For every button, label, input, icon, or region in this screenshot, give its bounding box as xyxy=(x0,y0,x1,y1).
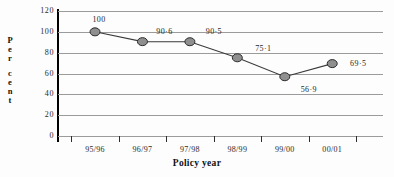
y-axis-title-letter: t xyxy=(2,96,18,105)
data-point-label: 75·1 xyxy=(255,43,271,52)
x-axis-tick-mark xyxy=(166,136,167,142)
y-axis-tick-label: 20 xyxy=(20,110,54,119)
x-axis-tick-mark xyxy=(261,136,262,142)
data-point-label: 56·9 xyxy=(301,84,317,93)
y-axis-title-letter: r xyxy=(2,54,18,63)
data-point-label: 90·6 xyxy=(156,26,172,35)
x-axis-tick-mark xyxy=(214,136,215,142)
x-axis-tick-mark xyxy=(119,136,120,142)
data-point-labels: 10090·690·575·156·969·5 xyxy=(58,11,383,136)
y-axis-tick-label: 0 xyxy=(20,131,54,140)
x-axis-tick-labels: 95/9696/9797/9898/9999/0000/01 xyxy=(58,145,383,157)
x-axis-tick-label: 00/01 xyxy=(322,145,342,154)
y-axis-tick-label: 40 xyxy=(20,89,54,98)
x-axis-tick-mark xyxy=(309,136,310,142)
chart-figure: P e r c e n t 020406080100120 10090·690·… xyxy=(0,0,394,177)
x-axis-tick-label: 96/97 xyxy=(133,145,153,154)
x-axis-tick-label: 98/99 xyxy=(227,145,247,154)
y-axis-tick-label: 120 xyxy=(20,6,54,15)
data-point-label: 100 xyxy=(92,14,105,23)
x-axis-tick-mark xyxy=(356,136,357,142)
x-axis-tick-label: 95/96 xyxy=(85,145,105,154)
y-axis-tick-labels: 020406080100120 xyxy=(18,0,54,177)
x-axis-tick-label: 99/00 xyxy=(275,145,295,154)
data-point-label: 90·5 xyxy=(206,26,222,35)
x-axis-tick-mark xyxy=(71,136,72,142)
y-axis-title: P e r c e n t xyxy=(2,36,18,105)
x-axis-tick-label: 97/98 xyxy=(180,145,200,154)
data-point-label: 69·5 xyxy=(350,58,366,67)
x-axis-title: Policy year xyxy=(0,158,394,168)
y-axis-tick-label: 80 xyxy=(20,48,54,57)
y-axis-tick-label: 100 xyxy=(20,27,54,36)
x-axis-ticks xyxy=(58,136,383,144)
y-axis-tick-label: 60 xyxy=(20,69,54,78)
